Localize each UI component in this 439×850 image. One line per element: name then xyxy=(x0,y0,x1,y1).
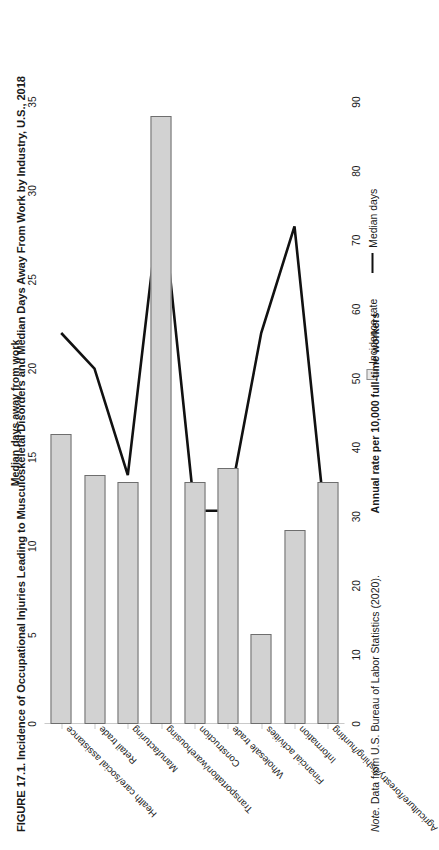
incidence-rate-tick-label: 80 xyxy=(350,165,361,176)
bar-health-care-social-assistance xyxy=(50,434,71,724)
legend-line-icon xyxy=(371,253,373,273)
figure-note-prefix: Note. xyxy=(368,807,380,832)
category-tick xyxy=(194,724,195,729)
incidence-rate-tick-label: 60 xyxy=(350,304,361,315)
category-tick xyxy=(161,724,162,729)
incidence-rate-tick-label: 10 xyxy=(350,649,361,660)
median-days-tick-label: 5 xyxy=(26,632,37,638)
legend-label: Median days xyxy=(367,189,378,248)
incidence-rate-axis-title: Annual rate per 10,000 full-time workers xyxy=(368,313,380,514)
median-days-tick-label: 30 xyxy=(26,185,37,196)
category-tick xyxy=(61,724,62,729)
category-label: Agriculture/forestry/fishing/hunting xyxy=(329,724,439,834)
incidence-rate-tick-label: 40 xyxy=(350,442,361,453)
chart-plot-area: Health care/social assistanceRetail trad… xyxy=(44,102,344,724)
category-label: Financial activities xyxy=(262,724,325,787)
median-days-axis-title: Median days away from work xyxy=(8,340,20,487)
category-tick xyxy=(127,724,128,729)
bar-manufacturing xyxy=(117,482,138,724)
median-days-tick-label: 0 xyxy=(26,721,37,727)
category-tick xyxy=(327,724,328,729)
category-tick xyxy=(294,724,295,729)
incidence-rate-tick-label: 90 xyxy=(350,96,361,107)
bar-financial-activities xyxy=(250,634,271,724)
bar-construction xyxy=(184,482,205,724)
median-days-tick-label: 25 xyxy=(26,274,37,285)
incidence-rate-tick-label: 30 xyxy=(350,511,361,522)
bar-agriculture-forestry-fishing-hunting xyxy=(317,482,338,724)
category-tick xyxy=(94,724,95,729)
median-days-tick-label: 15 xyxy=(26,452,37,463)
legend-item-median-days: Median days xyxy=(367,189,378,273)
bar-retail-trade xyxy=(84,475,105,724)
incidence-rate-tick-label: 0 xyxy=(350,721,361,727)
bar-wholesale-trade xyxy=(217,468,238,724)
median-days-tick-label: 20 xyxy=(26,363,37,374)
incidence-rate-tick-label: 70 xyxy=(350,235,361,246)
incidence-rate-tick-label: 20 xyxy=(350,580,361,591)
bar-transportation-warehousing xyxy=(150,116,171,724)
category-tick xyxy=(261,724,262,729)
median-days-tick-label: 35 xyxy=(26,96,37,107)
bar-information xyxy=(284,531,305,725)
category-tick xyxy=(227,724,228,729)
median-days-tick-label: 10 xyxy=(26,541,37,552)
incidence-rate-tick-label: 50 xyxy=(350,373,361,384)
